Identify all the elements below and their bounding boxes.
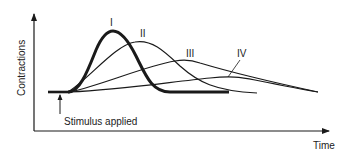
stimulus-label: Stimulus applied (64, 116, 137, 127)
curve-iii (70, 60, 318, 92)
curve-label-iv: IV (237, 48, 247, 59)
curve-label-iii: III (186, 48, 194, 59)
curve-label-ii: II (140, 28, 146, 39)
contraction-diagram: I II III IV Stimulus applied Contraction… (0, 0, 350, 155)
curve-iv-leader (228, 60, 240, 77)
curve-iv (70, 77, 318, 92)
y-axis-label: Contractions (16, 40, 27, 96)
curve-label-i: I (110, 17, 113, 28)
x-axis-label: Time (313, 140, 335, 151)
